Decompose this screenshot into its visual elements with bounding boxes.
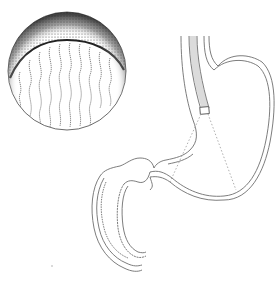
stomach — [150, 56, 274, 201]
magnified-inset — [8, 12, 126, 130]
duodenum — [92, 158, 154, 271]
field-of-view-lines — [170, 114, 236, 190]
illustration-canvas — [0, 0, 278, 282]
stomach-diagram — [0, 0, 278, 282]
endoscope-tip — [200, 107, 210, 115]
stray-dot — [51, 265, 53, 267]
endoscope — [189, 36, 209, 114]
